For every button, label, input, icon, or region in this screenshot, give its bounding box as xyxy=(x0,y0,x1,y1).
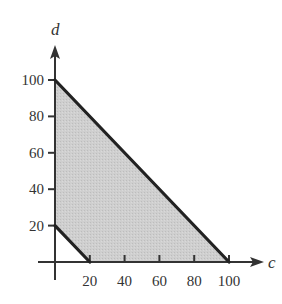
y-tick-label: 40 xyxy=(29,181,44,197)
y-tick-label: 100 xyxy=(22,72,45,88)
y-tick-label: 20 xyxy=(29,218,44,234)
x-tick-label: 80 xyxy=(187,273,202,289)
y-tick-label: 80 xyxy=(29,108,44,124)
y-axis-label: d xyxy=(51,20,60,39)
y-tick-label: 60 xyxy=(29,145,44,161)
x-tick-label: 40 xyxy=(117,273,132,289)
feasible-region-chart: 20406080100 20406080100 c d xyxy=(0,0,282,304)
x-axis-label: c xyxy=(268,253,276,272)
x-tick-label: 60 xyxy=(152,273,167,289)
x-tick-label: 100 xyxy=(218,273,241,289)
x-tick-label: 20 xyxy=(82,273,97,289)
y-ticks: 20406080100 xyxy=(22,72,57,234)
